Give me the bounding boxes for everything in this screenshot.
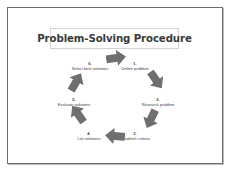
step-label: Define problem <box>121 66 148 71</box>
step-4: 4. List solutions <box>77 131 100 141</box>
step-2: 2. Research problem <box>142 97 175 107</box>
step-label: List solutions <box>77 136 100 141</box>
step-6: 6. Select best solutions <box>72 61 109 71</box>
arrow-left-icon <box>104 127 125 145</box>
arrow-right-icon <box>105 49 127 68</box>
step-label: Research problem <box>142 102 175 107</box>
title-box: Problem-Solving Procedure <box>50 28 179 49</box>
page-title: Problem-Solving Procedure <box>37 33 192 44</box>
